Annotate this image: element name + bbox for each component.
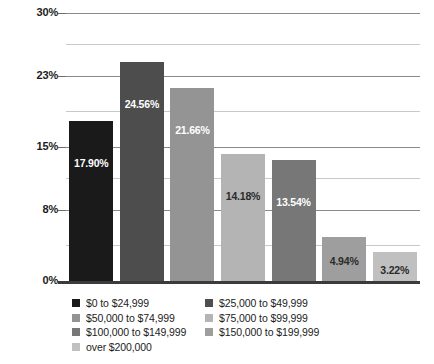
y-axis-tick-label: 30% — [37, 6, 58, 18]
plot-area: 17.90%24.56%21.66%14.18%13.54%4.94%3.22% — [66, 13, 420, 281]
y-axis: 30%23%15%8%0% — [0, 0, 58, 364]
legend-item: $100,000 to $149,999 — [72, 325, 207, 340]
legend-item: $150,000 to $199,999 — [205, 325, 395, 340]
bar-value-label: 14.18% — [221, 190, 265, 202]
y-axis-tick-label: 23% — [37, 69, 58, 81]
bar: 24.56% — [120, 62, 164, 281]
legend-item-label: $0 to $24,999 — [86, 297, 149, 309]
legend-item-label: $25,000 to $49,999 — [219, 297, 308, 309]
bar: 4.94% — [322, 237, 366, 281]
legend-item: $0 to $24,999 — [72, 296, 207, 311]
bar-value-label: 3.22% — [373, 264, 417, 276]
legend-item: over $200,000 — [72, 340, 207, 355]
y-axis-tick-label: 8% — [43, 203, 59, 215]
legend-item-label: $150,000 to $199,999 — [219, 326, 319, 338]
bar: 17.90% — [69, 121, 113, 281]
legend-column-1: $0 to $24,999$50,000 to $74,999$100,000 … — [72, 296, 207, 354]
legend-swatch-icon — [205, 328, 213, 336]
legend-item: $25,000 to $49,999 — [205, 296, 395, 311]
legend-swatch-icon — [205, 299, 213, 307]
legend-swatch-icon — [72, 328, 80, 336]
bar: 13.54% — [272, 160, 316, 281]
legend-item-label: $100,000 to $149,999 — [86, 326, 186, 338]
legend-item-label: $50,000 to $74,999 — [86, 312, 175, 324]
bar-value-label: 4.94% — [322, 255, 366, 267]
bar-value-label: 13.54% — [272, 196, 316, 208]
legend-item-label: over $200,000 — [86, 341, 152, 353]
bar: 3.22% — [373, 252, 417, 281]
legend-item-label: $75,000 to $99,999 — [219, 312, 308, 324]
x-axis-baseline — [58, 281, 420, 284]
legend-item: $50,000 to $74,999 — [72, 311, 207, 326]
bar-value-label: 17.90% — [69, 157, 113, 169]
legend-swatch-icon — [72, 343, 80, 351]
y-axis-tick-label: 0% — [43, 274, 59, 286]
legend-item: $75,000 to $99,999 — [205, 311, 395, 326]
bar: 21.66% — [170, 88, 214, 281]
legend-swatch-icon — [72, 299, 80, 307]
bar-value-label: 24.56% — [120, 98, 164, 110]
bar-series: 17.90%24.56%21.66%14.18%13.54%4.94%3.22% — [66, 13, 420, 281]
bar: 14.18% — [221, 154, 265, 281]
legend-swatch-icon — [72, 314, 80, 322]
bar-chart: 30%23%15%8%0% 17.90%24.56%21.66%14.18%13… — [0, 0, 434, 364]
y-axis-tick-label: 15% — [37, 140, 58, 152]
legend-swatch-icon — [205, 314, 213, 322]
bar-value-label: 21.66% — [170, 124, 214, 136]
legend-column-2: $25,000 to $49,999$75,000 to $99,999$150… — [205, 296, 395, 340]
